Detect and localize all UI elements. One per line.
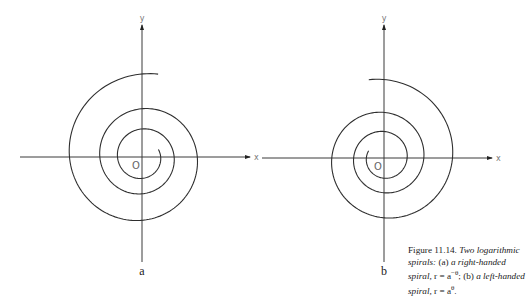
caption-number: Figure 11.14. bbox=[408, 245, 457, 255]
panel-b: x y O b bbox=[262, 14, 501, 278]
y-axis-label: y bbox=[140, 14, 145, 23]
caption-part-b-eq: r = a bbox=[434, 286, 451, 296]
caption-end: . bbox=[454, 286, 456, 296]
x-axis-label: x bbox=[254, 153, 259, 162]
y-axis-label: y bbox=[382, 14, 387, 23]
origin-label: O bbox=[132, 160, 140, 171]
right-handed-spiral-curve bbox=[69, 74, 197, 221]
left-handed-spiral-curve bbox=[332, 79, 453, 218]
figure-caption: Figure 11.14. Two logarithmic spirals: (… bbox=[408, 245, 526, 298]
origin-label: O bbox=[374, 161, 382, 172]
panel-label-a: a bbox=[139, 264, 145, 278]
caption-part-a-eq: r = a bbox=[434, 271, 451, 281]
panel-a: x y O a bbox=[20, 14, 259, 278]
caption-part-b-label: (b) bbox=[463, 271, 474, 281]
panel-label-b: b bbox=[381, 264, 387, 278]
caption-separator: ; bbox=[458, 271, 461, 281]
caption-part-a-label: (a) bbox=[438, 257, 448, 267]
x-axis-label: x bbox=[496, 154, 501, 163]
